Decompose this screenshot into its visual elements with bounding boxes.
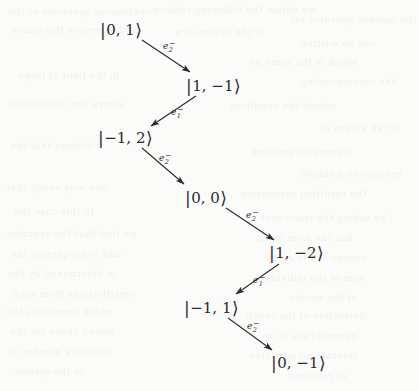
particle-charge-superscript: − — [252, 208, 258, 217]
state-ket: |1, −1⟩ — [186, 78, 241, 95]
ket-angle-bracket: ⟩ — [316, 243, 323, 263]
state-ket: |−1, 2⟩ — [98, 130, 153, 147]
ket-angle-bracket: ⟩ — [145, 128, 152, 148]
state-ket: |−1, 1⟩ — [184, 300, 239, 317]
particle-charge-superscript: − — [253, 319, 259, 328]
emitted-particle-label: e2− — [159, 152, 172, 165]
particle-charge-superscript: − — [177, 105, 183, 114]
ket-angle-bracket: ⟩ — [318, 353, 325, 373]
particle-charge-superscript: − — [169, 39, 175, 48]
ket-angle-bracket: ⟩ — [231, 298, 238, 318]
ket-angle-bracket: ⟩ — [233, 76, 240, 96]
particle-charge-superscript: − — [259, 273, 265, 282]
ket-quantum-numbers: −1, 2 — [104, 129, 145, 147]
ket-quantum-numbers: 0, −1 — [277, 354, 318, 372]
state-ket: |0, 1⟩ — [100, 22, 142, 39]
ket-quantum-numbers: 0, 1 — [106, 21, 135, 39]
ket-angle-bracket: ⟩ — [220, 188, 227, 208]
emitted-particle-label: e1− — [171, 106, 184, 119]
figure-page: a continuous spectrum of thewe obtain th… — [0, 0, 419, 391]
emitted-particle-label: e2− — [163, 40, 176, 53]
emitted-particle-label: e2− — [246, 209, 259, 222]
ket-quantum-numbers: 1, −1 — [192, 77, 233, 95]
state-ket: |0, −1⟩ — [271, 355, 326, 372]
ket-quantum-numbers: 1, −2 — [275, 244, 316, 262]
state-ket: |0, 0⟩ — [185, 190, 227, 207]
emitted-particle-label: e2− — [247, 320, 260, 333]
ket-quantum-numbers: 0, 0 — [191, 189, 220, 207]
ket-quantum-numbers: −1, 1 — [190, 299, 231, 317]
ket-angle-bracket: ⟩ — [135, 20, 142, 40]
emitted-particle-label: e1− — [253, 274, 266, 287]
state-ket: |1, −2⟩ — [269, 245, 324, 262]
particle-charge-superscript: − — [165, 151, 171, 160]
